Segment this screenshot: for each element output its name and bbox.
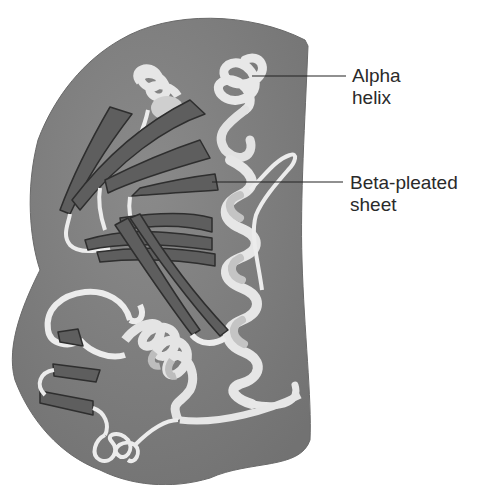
protein-structure-diagram bbox=[0, 0, 479, 485]
beta-sheet-label: Beta-pleated sheet bbox=[350, 172, 458, 216]
alpha-helix-label-line1: Alpha bbox=[352, 65, 401, 87]
alpha-helix-label-line2: helix bbox=[352, 87, 401, 109]
beta-sheet-label-line2: sheet bbox=[350, 194, 458, 216]
beta-sheet-label-line1: Beta-pleated bbox=[350, 172, 458, 194]
alpha-helix-label: Alpha helix bbox=[352, 65, 401, 109]
